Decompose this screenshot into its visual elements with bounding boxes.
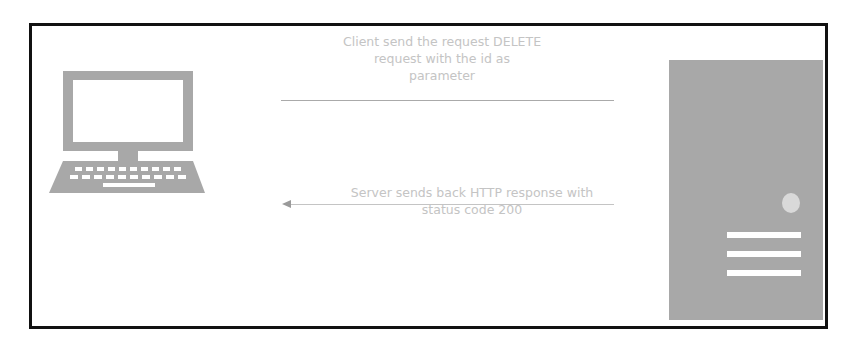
request-label: Client send the request DELETE request w…: [332, 33, 552, 84]
desktop-computer-icon: [45, 71, 205, 201]
client-computer: [45, 71, 205, 201]
response-arrowhead-icon: [282, 200, 291, 208]
server-power-led-icon: [782, 193, 800, 213]
server-drive-slot-icon: [727, 232, 801, 238]
response-label-line-1: Server sends back HTTP response with: [322, 184, 622, 201]
server-tower: [669, 60, 823, 320]
diagram-frame: Client send the request DELETE request w…: [29, 23, 828, 329]
response-arrow-line: [291, 204, 614, 205]
server-drive-slot-icon: [727, 251, 801, 257]
response-label: Server sends back HTTP response with sta…: [322, 184, 622, 218]
server-drive-slot-icon: [727, 270, 801, 276]
request-label-line-1: Client send the request DELETE: [332, 33, 552, 50]
request-arrow-line: [281, 100, 614, 101]
request-label-line-2: request with the id as: [332, 50, 552, 67]
request-label-line-3: parameter: [332, 67, 552, 84]
